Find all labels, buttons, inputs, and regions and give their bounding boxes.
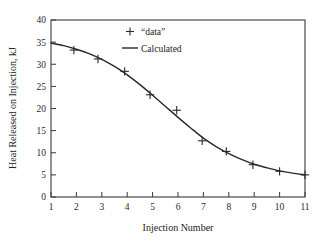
x-tick-label: 5 [150,202,155,212]
y-tick-label: 10 [37,148,47,158]
calculated-series-line [51,43,305,175]
y-tick-label: 30 [37,60,47,70]
x-tick-label: 7 [201,202,206,212]
y-axis-ticks [51,20,56,197]
data-point-marker [146,91,154,99]
x-axis-ticks [51,192,305,197]
data-series-markers [70,46,310,179]
data-point-marker [120,67,128,75]
legend-entry-data: “data” [126,27,165,37]
x-tick-label: 2 [74,202,79,212]
chart-figure: 0510152025303540 1234567891011 Injection… [0,0,328,241]
legend-label-calculated: Calculated [141,44,182,54]
legend-label-data: “data” [141,27,165,37]
y-tick-label: 15 [37,126,47,136]
y-tick-label: 0 [41,192,46,202]
x-tick-label: 8 [226,202,231,212]
y-axis-title: Heat Released on Injection, kJ [7,47,18,169]
y-tick-label: 5 [41,170,46,180]
y-tick-label: 25 [37,82,47,92]
chart-legend: “data” Calculated [122,27,182,54]
x-tick-label: 1 [49,202,54,212]
x-tick-label: 3 [99,202,104,212]
x-tick-label: 10 [275,202,285,212]
chart-canvas: 0510152025303540 1234567891011 Injection… [0,0,328,241]
legend-entry-calculated: Calculated [122,44,182,54]
x-axis-title: Injection Number [143,222,214,233]
y-axis-tick-labels: 0510152025303540 [37,15,47,202]
data-point-marker [275,167,283,175]
x-tick-label: 4 [125,202,130,212]
plus-marker-icon [126,28,134,36]
x-tick-label: 11 [300,202,309,212]
x-tick-label: 6 [176,202,181,212]
data-point-marker [198,137,206,145]
y-tick-label: 40 [37,15,47,25]
data-point-marker [301,171,309,179]
x-axis-tick-labels: 1234567891011 [49,202,310,212]
y-tick-label: 20 [37,104,47,114]
x-tick-label: 9 [252,202,257,212]
data-point-marker [249,160,257,168]
y-tick-label: 35 [37,38,47,48]
